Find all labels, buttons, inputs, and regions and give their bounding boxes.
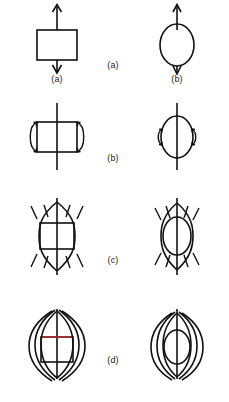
- diagram-rect-lens-dashes: [0, 193, 115, 281]
- diagram-row2-right: [125, 98, 229, 178]
- diagram-row3-right: [125, 193, 229, 281]
- figure-row-2: (b): [0, 98, 229, 193]
- diagram-row2-left: [0, 98, 115, 178]
- sub-label-row1-left: (a): [37, 74, 77, 84]
- sub-label-row1-right: (b): [157, 74, 197, 84]
- diagram-ellipse-nested-arcs: [125, 297, 229, 389]
- diagram-ellipse-side-arcs: [125, 98, 229, 178]
- diagram-ellipse-arrows: [125, 0, 229, 78]
- figure-row-1: (a) (b) (a): [0, 0, 229, 95]
- figure-row-3: (c): [0, 193, 229, 295]
- diagram-row3-left: [0, 193, 115, 281]
- diagram-rect-nested-arcs: [0, 297, 115, 389]
- center-label-row3: (c): [93, 255, 133, 265]
- figure-root: (a) (b) (a): [0, 0, 229, 402]
- diagram-row4-right: [125, 297, 229, 389]
- center-label-row2: (b): [93, 153, 133, 163]
- diagram-rect-side-arcs: [0, 98, 115, 178]
- center-label-row4: (d): [93, 355, 133, 365]
- figure-row-4: (d): [0, 297, 229, 402]
- diagram-ellipse-lens-dashes: [125, 193, 229, 281]
- diagram-row4-left: [0, 297, 115, 389]
- center-label-row1: (a): [93, 60, 133, 70]
- diagram-row1-right: (b): [125, 0, 229, 78]
